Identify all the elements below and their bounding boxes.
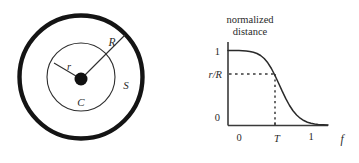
y-tick-label-0: 0 <box>215 112 220 123</box>
radius-line-outer <box>81 35 125 79</box>
x-tick-label-1: 1 <box>308 131 313 142</box>
concentric-circles-diagram: R r C S <box>20 16 143 139</box>
label-outer-radius: R <box>107 36 115 48</box>
normalized-distance-chart: normalized distance 1 r/R 0 0 T 1 f <box>209 14 346 146</box>
x-axis-label: f <box>340 133 345 146</box>
label-inner-radius: r <box>67 61 72 72</box>
chart-title-line-1: normalized <box>226 14 274 25</box>
figure-root: R r C S normalized distance 1 r/R 0 0 T … <box>0 0 359 163</box>
figure-svg: R r C S normalized distance 1 r/R 0 0 T … <box>0 0 359 163</box>
x-tick-label-T: T <box>274 133 281 144</box>
label-center: C <box>77 96 85 108</box>
y-tick-label-1: 1 <box>215 46 220 57</box>
center-dot <box>75 73 88 86</box>
data-curve <box>228 51 328 126</box>
x-tick-label-0: 0 <box>236 132 241 143</box>
label-annulus: S <box>123 79 129 91</box>
chart-title-line-2: distance <box>233 26 268 37</box>
y-tick-label-ratio: r/R <box>209 69 223 80</box>
